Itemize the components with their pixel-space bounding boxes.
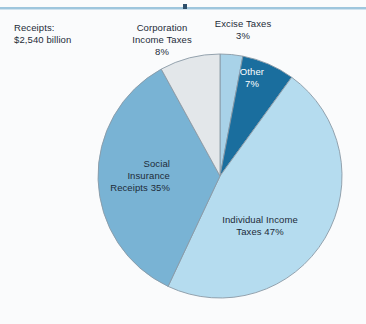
slice-label-social-insurance-receipts: Social Insurance Receipts 35% xyxy=(78,158,170,194)
slice-label-other: Other 7% xyxy=(224,66,280,90)
slice-label-individual-income-taxes: Individual Income Taxes 47% xyxy=(208,214,312,238)
receipts-total-label: Receipts: $2,540 billion xyxy=(14,22,71,46)
slice-label-corporation-income-taxes: Corporation Income Taxes 8% xyxy=(114,22,210,58)
slice-label-excise-taxes: Excise Taxes 3% xyxy=(200,18,286,42)
pie-chart-figure: Receipts: $2,540 billion Corporation Inc… xyxy=(0,0,366,324)
